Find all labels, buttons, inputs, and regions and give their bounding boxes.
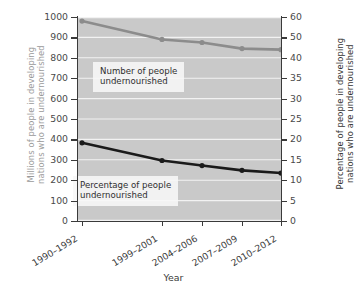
- data-point: [239, 46, 244, 51]
- bottom-axis-spine: [77, 221, 282, 222]
- data-point: [199, 40, 204, 45]
- right-tick-label: 60: [290, 11, 316, 22]
- right-tick-label: 30: [290, 93, 316, 104]
- annotation-percentage-of-people: Percentage of people undernourished: [73, 176, 178, 206]
- x-tick-mark: [202, 221, 203, 226]
- right-tick-label: 25: [290, 113, 316, 124]
- x-tick-label: 1990–1992: [30, 234, 79, 269]
- right-tick-mark: [281, 17, 287, 18]
- right-tick-label: 20: [290, 133, 316, 144]
- right-tick-label: 10: [290, 174, 316, 185]
- right-tick-label: 35: [290, 72, 316, 83]
- left-tick-mark: [71, 99, 77, 100]
- left-tick-label: 100: [34, 195, 68, 206]
- right-tick-label: 40: [290, 52, 316, 63]
- left-tick-label: 0: [34, 215, 68, 226]
- data-point: [79, 18, 84, 23]
- annotation-number-line-1: Number of people: [100, 66, 177, 76]
- right-tick-label: 50: [290, 31, 316, 42]
- left-tick-mark: [71, 201, 77, 202]
- left-tick-label: 500: [34, 113, 68, 124]
- data-point: [239, 168, 244, 173]
- right-tick-mark: [281, 201, 287, 202]
- left-tick-label: 300: [34, 154, 68, 165]
- right-tick-mark: [281, 37, 287, 38]
- right-tick-mark: [281, 99, 287, 100]
- left-tick-label: 600: [34, 93, 68, 104]
- annotation-number-of-people: Number of people undernourished: [93, 62, 184, 92]
- percent-series-line: [82, 143, 281, 173]
- left-tick-mark: [71, 17, 77, 18]
- right-tick-label: 15: [290, 154, 316, 165]
- right-tick-label: 0: [290, 215, 316, 226]
- x-tick-mark: [162, 221, 163, 226]
- right-axis-title: Percentage of people in developing natio…: [336, 14, 355, 214]
- left-tick-label: 200: [34, 174, 68, 185]
- x-axis-title: Year: [0, 272, 347, 283]
- data-point: [79, 140, 84, 145]
- left-tick-mark: [71, 139, 77, 140]
- left-tick-mark: [71, 160, 77, 161]
- right-tick-label: 5: [290, 195, 316, 206]
- left-tick-label: 800: [34, 52, 68, 63]
- annotation-number-line-2: undernourished: [100, 76, 177, 86]
- right-tick-mark: [281, 78, 287, 79]
- annotation-percent-line-2: undernourished: [80, 190, 171, 200]
- data-point: [199, 163, 204, 168]
- left-tick-mark: [71, 119, 77, 120]
- right-tick-mark: [281, 139, 287, 140]
- x-tick-mark: [281, 221, 282, 226]
- left-tick-mark: [71, 78, 77, 79]
- x-tick-mark: [82, 221, 83, 226]
- x-tick-mark: [242, 221, 243, 226]
- data-point: [159, 158, 164, 163]
- left-tick-label: 400: [34, 133, 68, 144]
- right-tick-mark: [281, 160, 287, 161]
- left-axis-spine: [77, 16, 78, 222]
- left-tick-label: 700: [34, 72, 68, 83]
- right-tick-mark: [281, 58, 287, 59]
- data-point: [159, 37, 164, 42]
- left-tick-label: 1000: [34, 11, 68, 22]
- left-tick-mark: [71, 180, 77, 181]
- right-tick-mark: [281, 180, 287, 181]
- number-series-markers: [79, 18, 281, 52]
- number-series-line: [82, 21, 281, 50]
- left-tick-label: 900: [34, 31, 68, 42]
- annotation-percent-line-1: Percentage of people: [80, 180, 171, 190]
- left-tick-mark: [71, 58, 77, 59]
- left-tick-mark: [71, 221, 77, 222]
- right-axis-title-line-2: nations who are undernourished: [346, 14, 356, 214]
- right-tick-mark: [281, 119, 287, 120]
- left-tick-mark: [71, 37, 77, 38]
